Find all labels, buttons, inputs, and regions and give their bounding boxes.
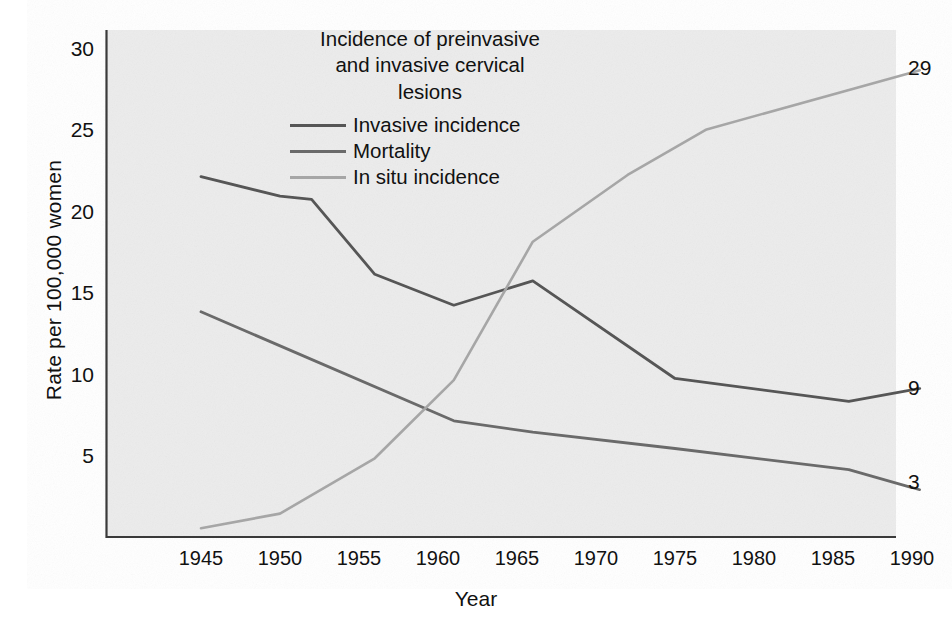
x-tick-label-1965: 1965 [477, 547, 557, 570]
legend-line-swatch-in-situ-incidence [290, 176, 346, 179]
x-tick-label-1975: 1975 [635, 547, 715, 570]
y-tick-label-25: 25 [50, 118, 94, 142]
x-tick-label-1985: 1985 [793, 547, 873, 570]
legend-label-invasive-incidence: Invasive incidence [353, 115, 521, 136]
y-tick-label-30: 30 [50, 37, 94, 61]
legend-label-in-situ-incidence: In situ incidence [353, 167, 500, 188]
legend-item-invasive-incidence: Invasive incidence [290, 112, 521, 138]
chart-title-line-2: and invasive cervical [296, 52, 564, 78]
y-tick-label-5: 5 [50, 444, 94, 468]
end-value-label-invasive-incidence: 9 [908, 376, 920, 400]
legend-line-swatch-mortality [290, 150, 346, 153]
legend-line-swatch-invasive-incidence [290, 124, 346, 127]
legend-item-mortality: Mortality [290, 138, 521, 164]
end-value-label-mortality: 3 [908, 470, 920, 494]
end-value-label-in-situ-incidence: 29 [908, 56, 931, 80]
legend-label-mortality: Mortality [353, 141, 430, 162]
y-tick-label-15: 15 [50, 281, 94, 305]
x-axis-title: Year [455, 587, 497, 611]
x-tick-label-1945: 1945 [161, 547, 241, 570]
x-tick-label-1980: 1980 [714, 547, 794, 570]
chart-figure: Rate per 100,000 women 30 25 20 15 10 5 … [0, 0, 952, 624]
x-tick-label-1960: 1960 [398, 547, 478, 570]
x-tick-label-1990: 1990 [872, 547, 952, 570]
chart-title-line-3: lesions [296, 79, 564, 105]
legend-item-in-situ-incidence: In situ incidence [290, 164, 521, 190]
chart-title-line-1: Incidence of preinvasive [296, 26, 564, 52]
y-tick-label-10: 10 [50, 363, 94, 387]
chart-title: Incidence of preinvasive and invasive ce… [296, 26, 564, 105]
y-tick-label-20: 20 [50, 200, 94, 224]
x-tick-label-1950: 1950 [240, 547, 320, 570]
chart-legend: Invasive incidence Mortality In situ inc… [290, 112, 521, 190]
x-tick-label-1970: 1970 [556, 547, 636, 570]
x-tick-label-1955: 1955 [319, 547, 399, 570]
